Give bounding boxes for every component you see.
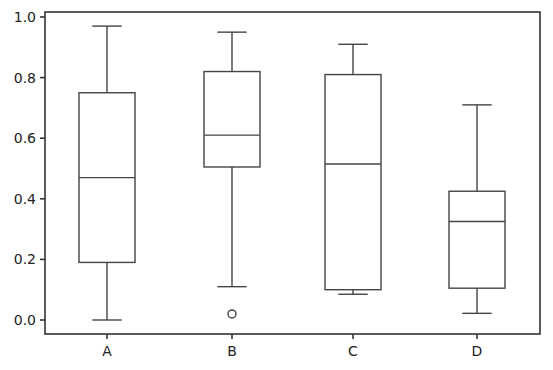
box-C <box>325 44 381 294</box>
x-tick-label: A <box>102 343 112 359</box>
box-iqr <box>325 75 381 290</box>
x-axis: ABCD <box>102 334 482 359</box>
box-A <box>79 26 135 320</box>
x-tick-label: C <box>348 343 358 359</box>
y-tick-label: 0.4 <box>14 191 36 207</box>
y-tick-label: 0.0 <box>14 312 36 328</box>
y-tick-label: 1.0 <box>14 9 36 25</box>
boxes-group <box>79 26 505 320</box>
x-tick-label: D <box>472 343 483 359</box>
plot-area <box>45 12 540 334</box>
box-iqr <box>204 72 260 167</box>
box-iqr <box>449 191 505 288</box>
y-tick-label: 0.8 <box>14 70 36 86</box>
y-tick-label: 0.6 <box>14 130 36 146</box>
y-tick-label: 0.2 <box>14 251 36 267</box>
box-B <box>204 32 260 318</box>
box-D <box>449 105 505 313</box>
x-tick-label: B <box>227 343 237 359</box>
y-axis: 0.00.20.40.60.81.0 <box>14 9 45 328</box>
box-plot-chart: 0.00.20.40.60.81.0 ABCD <box>0 0 553 370</box>
outlier-point <box>228 310 236 318</box>
